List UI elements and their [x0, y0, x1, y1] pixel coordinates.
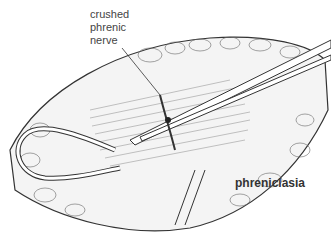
- figure-title: phreniclasia: [235, 176, 305, 190]
- annotation-label: crushed phrenic nerve: [90, 8, 129, 47]
- surgical-illustration: [0, 0, 331, 234]
- annotation-line: crushed: [90, 8, 129, 21]
- crush-site: [165, 117, 171, 123]
- annotation-line: phrenic: [90, 21, 129, 34]
- annotation-line: nerve: [90, 34, 129, 47]
